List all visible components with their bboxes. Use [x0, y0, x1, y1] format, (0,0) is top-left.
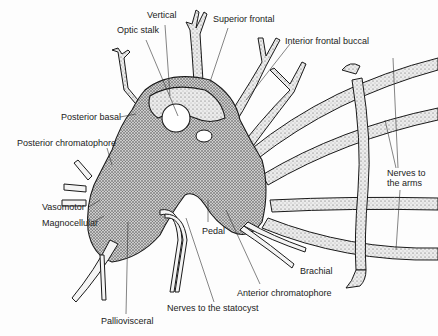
label-pedal: Pedal [202, 226, 225, 236]
label-interior-frontal-buccal: Interior frontal buccal [285, 36, 369, 46]
optic-stalk-circle [162, 104, 190, 132]
label-posterior-chromatophore: Posterior chromatophore [17, 138, 116, 148]
label-superior-frontal: Superior frontal [213, 14, 275, 24]
label-nerves-to-the-statocyst: Nerves to the statocyst [167, 303, 259, 313]
anatomy-illustration [0, 0, 438, 336]
label-optic-stalk: Optic stalk [117, 25, 159, 35]
optic-oval [196, 130, 212, 142]
label-anterior-chromatophore: Anterior chromatophore [237, 288, 332, 298]
label-nerves-to-the-arms: Nerves to the arms [387, 168, 426, 188]
octopus-brain-diagram: Vertical Superior frontal Optic stalk In… [0, 0, 438, 336]
label-vertical: Vertical [147, 10, 177, 20]
label-magnocellular: Magnocellular [42, 218, 98, 228]
label-palliovisceral: Palliovisceral [101, 316, 154, 326]
label-brachial: Brachial [300, 266, 333, 276]
label-posterior-basal: Posterior basal [61, 112, 121, 122]
label-vasomotor: Vasomotor [42, 202, 85, 212]
